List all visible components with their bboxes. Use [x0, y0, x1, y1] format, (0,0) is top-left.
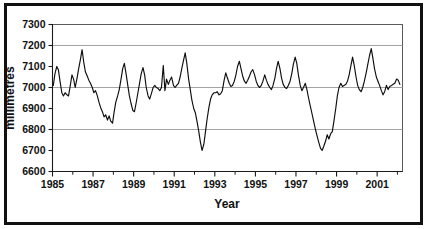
x-tick-label-1985: 1985	[41, 178, 65, 190]
plot-area	[53, 25, 403, 172]
y-tick-label-7200: 7200	[22, 39, 46, 51]
x-tick-label-1999: 1999	[325, 178, 349, 190]
x-tick-label-2001: 2001	[365, 178, 389, 190]
figure-container: 66006700680069007000710072007300 1985198…	[0, 0, 427, 229]
x-tick-label-1989: 1989	[122, 178, 146, 190]
x-tick-label-1995: 1995	[244, 178, 268, 190]
x-axis-tick-labels: 198519871989199119931995199719992001	[41, 178, 389, 190]
y-tick-label-6700: 6700	[22, 144, 46, 156]
x-tick-label-1987: 1987	[81, 178, 105, 190]
y-tick-label-6900: 6900	[22, 102, 46, 114]
x-axis-ticks	[53, 172, 398, 177]
y-tick-label-6600: 6600	[22, 165, 46, 177]
y-tick-label-6800: 6800	[22, 123, 46, 135]
x-axis-title: Year	[214, 197, 240, 211]
y-axis-ticks	[49, 25, 53, 172]
y-axis-title: millimetres	[3, 66, 17, 130]
y-tick-label-7000: 7000	[22, 81, 46, 93]
x-tick-label-1993: 1993	[203, 178, 227, 190]
x-tick-label-1991: 1991	[163, 178, 187, 190]
y-tick-label-7300: 7300	[22, 18, 46, 30]
line-chart: 66006700680069007000710072007300 1985198…	[0, 0, 427, 229]
x-tick-label-1997: 1997	[284, 178, 308, 190]
y-tick-label-7100: 7100	[22, 60, 46, 72]
y-axis-tick-labels: 66006700680069007000710072007300	[22, 18, 46, 177]
